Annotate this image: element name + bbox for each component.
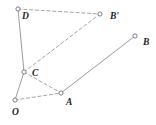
vertex-label-bp: B' [110, 12, 119, 22]
vertex-point-bp [98, 12, 102, 16]
vertex-label-d: D [22, 12, 29, 22]
segment-c-o [15, 72, 24, 100]
vertex-point-b [133, 34, 137, 38]
segments-layer [15, 9, 135, 100]
vertex-point-a [59, 91, 63, 95]
vertex-label-c: C [32, 69, 38, 79]
segment-a-b [61, 36, 135, 93]
vertex-label-b: B [143, 38, 149, 48]
segment-o-a [15, 93, 61, 100]
segment-c-bp [24, 14, 100, 72]
vertex-point-o [13, 98, 17, 102]
vertex-label-o: O [12, 108, 19, 118]
geometry-figure: DB'BCAO [0, 0, 156, 125]
segment-c-a [24, 72, 61, 93]
vertex-point-d [16, 7, 20, 11]
segment-d-bp [18, 9, 100, 14]
vertex-label-a: A [66, 98, 72, 108]
vertex-point-c [22, 70, 26, 74]
